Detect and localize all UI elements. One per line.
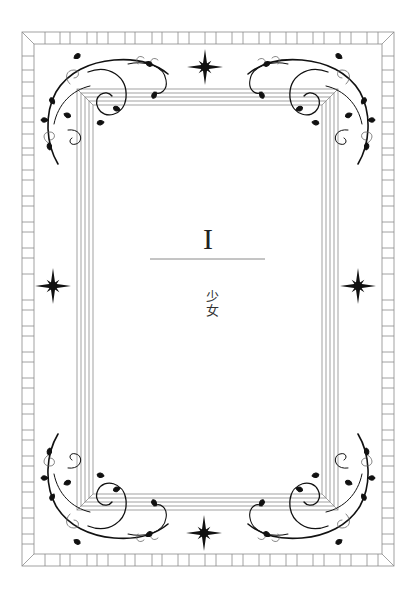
flourish-top-left [41,53,168,164]
flourish-top-right [248,53,375,164]
star-ornament-right [340,268,376,304]
flourish-bottom-right [248,434,375,545]
flourish-bottom-left [41,434,168,545]
chapter-title: 少女 [198,290,218,318]
star-ornament-bottom [186,515,222,551]
star-ornament-left [35,268,71,304]
star-ornament-top [187,49,223,85]
chapter-numeral: I [0,224,416,254]
